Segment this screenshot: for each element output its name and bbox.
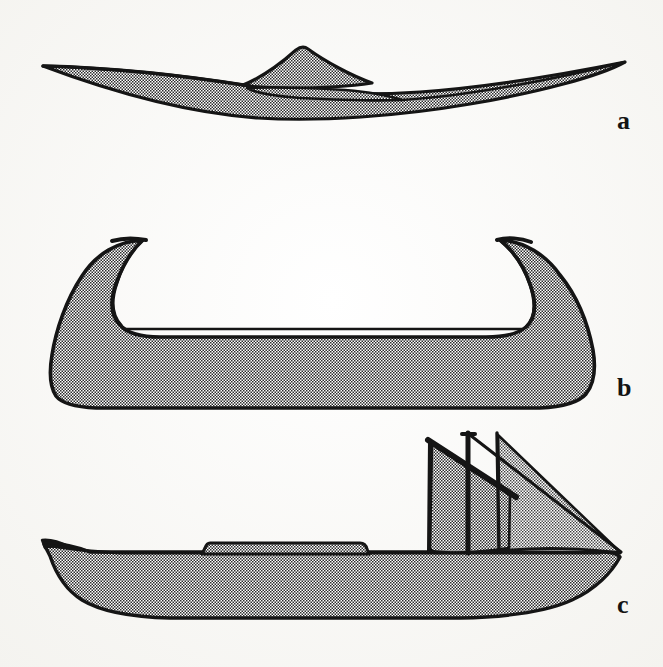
figure-label-c: c bbox=[617, 592, 629, 618]
figure-c-square-sail-luff bbox=[429, 441, 430, 551]
figure-c-deckhouse bbox=[202, 543, 369, 554]
figure-label-b: b bbox=[617, 375, 631, 401]
figure-label-a: a bbox=[617, 108, 630, 134]
figure-plate: a b c bbox=[0, 0, 663, 667]
figure-c-triangular-sail-luff bbox=[497, 433, 499, 552]
boat-figures-illustration bbox=[0, 0, 663, 667]
